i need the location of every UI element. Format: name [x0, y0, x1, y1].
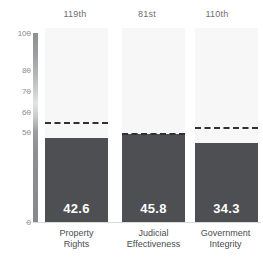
category-label-line1: Property	[40, 228, 113, 239]
y-axis-gradient-strip	[33, 33, 38, 223]
y-tick-label-70: 70	[0, 88, 31, 96]
rank-label-property-rights: 119th	[40, 9, 110, 20]
category-label-government-integrity: Government Integrity	[188, 228, 263, 250]
y-tick-label-60: 60	[0, 109, 31, 117]
y-tick-mark-80	[26, 70, 31, 71]
y-tick-mark-60	[26, 112, 31, 113]
y-tick-label-0: 0	[0, 219, 31, 227]
category-label-line1: Judicial	[112, 228, 195, 239]
category-label-line1: Government	[188, 228, 263, 239]
y-tick-label-100: 100	[0, 30, 31, 38]
average-reference-line-government-integrity	[195, 127, 258, 129]
average-reference-line-property-rights	[45, 122, 108, 124]
average-reference-line-judicial-effectiveness	[122, 133, 185, 135]
rank-label-government-integrity: 110th	[182, 9, 252, 20]
y-tick-mark-100	[26, 33, 31, 34]
y-tick-mark-50	[26, 132, 31, 133]
bar-value-label-property-rights: 42.6	[45, 201, 108, 216]
bar-government-integrity[interactable]: 34.3	[195, 143, 258, 222]
bar-chart: 119th 81st 110th 100 80 70 60 50 0 42.6 …	[0, 0, 263, 259]
y-tick-label-80: 80	[0, 67, 31, 75]
bar-judicial-effectiveness[interactable]: 45.8	[122, 134, 185, 222]
category-label-line2: Integrity	[188, 239, 263, 250]
y-tick-mark-70	[26, 91, 31, 92]
category-label-line2: Effectiveness	[112, 239, 195, 250]
category-label-line2: Rights	[40, 239, 113, 250]
bar-property-rights[interactable]: 42.6	[45, 138, 108, 222]
x-axis-baseline	[33, 222, 261, 223]
rank-label-judicial-effectiveness: 81st	[117, 9, 177, 20]
bar-value-label-government-integrity: 34.3	[195, 201, 258, 216]
category-label-judicial-effectiveness: Judicial Effectiveness	[112, 228, 195, 250]
y-tick-mark-0	[26, 222, 31, 223]
y-tick-label-50: 50	[0, 129, 31, 137]
category-label-property-rights: Property Rights	[40, 228, 113, 250]
bar-value-label-judicial-effectiveness: 45.8	[122, 201, 185, 216]
